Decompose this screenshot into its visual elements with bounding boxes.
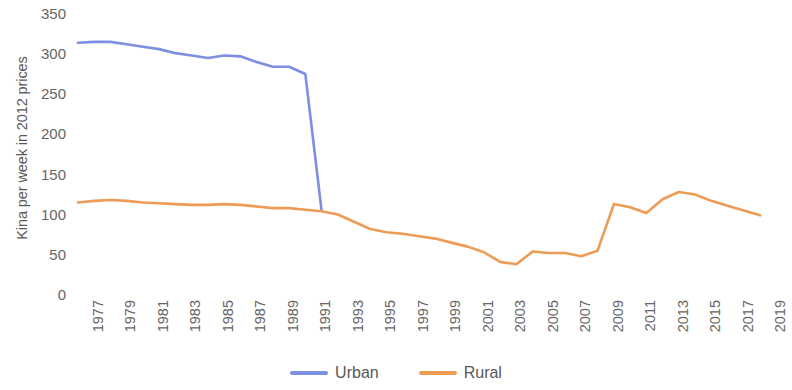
y-axis-tick-labels: 350300250200150100500 <box>20 0 66 300</box>
y-axis-tick-label: 350 <box>20 6 66 21</box>
y-axis-tick-label: 0 <box>20 287 66 302</box>
x-axis-tick-label: 2015 <box>708 300 723 356</box>
y-axis-tick-label: 250 <box>20 86 66 101</box>
x-axis-tick-label: 2003 <box>513 300 528 356</box>
line-chart: Kina per week in 2012 prices 35030025020… <box>0 0 792 390</box>
x-axis-tick-label: 2011 <box>643 300 658 356</box>
x-axis-tick-label: 1991 <box>318 300 333 356</box>
x-axis-tick-label: 1999 <box>448 300 463 356</box>
x-axis-tick-label: 1977 <box>91 300 106 356</box>
x-axis-tick-label: 1983 <box>188 300 203 356</box>
series-line-urban <box>78 42 322 211</box>
legend-label: Rural <box>464 365 502 381</box>
y-axis-tick-label: 300 <box>20 46 66 61</box>
y-axis-tick-label: 150 <box>20 167 66 182</box>
plot-area <box>72 8 778 300</box>
x-axis-tick-label: 2013 <box>676 300 691 356</box>
x-axis-tick-label: 1987 <box>253 300 268 356</box>
x-axis-tick-label: 1997 <box>416 300 431 356</box>
x-axis-tick-label: 1989 <box>286 300 301 356</box>
legend-entry-urban[interactable]: Urban <box>290 365 379 381</box>
x-axis-tick-label: 1979 <box>123 300 138 356</box>
y-axis-tick-label: 50 <box>20 247 66 262</box>
y-axis-tick-label: 200 <box>20 126 66 141</box>
legend-label: Urban <box>335 365 379 381</box>
x-axis-tick-label: 1981 <box>156 300 171 356</box>
x-axis-tick-label: 1995 <box>383 300 398 356</box>
x-axis-tick-labels: 1977197919811983198519871989199119931995… <box>72 300 778 356</box>
series-line-rural <box>78 192 760 264</box>
x-axis-tick-label: 2005 <box>546 300 561 356</box>
chart-legend: UrbanRural <box>0 360 792 386</box>
y-axis-tick-label: 100 <box>20 207 66 222</box>
x-axis-tick-label: 2009 <box>611 300 626 356</box>
x-axis-tick-label: 2019 <box>773 300 788 356</box>
x-axis-tick-label: 1993 <box>351 300 366 356</box>
legend-color-swatch <box>290 371 328 375</box>
x-axis-tick-label: 2007 <box>578 300 593 356</box>
x-axis-tick-label: 1985 <box>221 300 236 356</box>
series-lines <box>72 8 778 300</box>
legend-entry-rural[interactable]: Rural <box>419 365 502 381</box>
x-axis-tick-label: 2017 <box>741 300 756 356</box>
x-axis-tick-label: 2001 <box>481 300 496 356</box>
legend-color-swatch <box>419 371 457 375</box>
